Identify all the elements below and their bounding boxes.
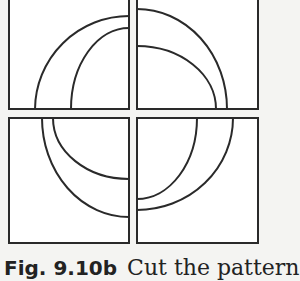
panel-top-right	[137, 0, 258, 109]
panel-border	[9, 118, 129, 243]
panel-top-left	[9, 0, 129, 109]
panel-bottom-left	[9, 118, 129, 243]
panel-bottom-right	[137, 118, 258, 243]
panel-border	[9, 0, 129, 109]
panel-border	[137, 0, 258, 109]
split-ring-figure	[0, 0, 263, 250]
caption-text: Cut the pattern	[127, 255, 299, 280]
figure-label: Fig. 9.10b	[4, 256, 117, 280]
figure-caption: Fig. 9.10bCut the pattern	[4, 255, 300, 281]
panel-border	[137, 118, 258, 243]
figure-canvas	[0, 0, 263, 250]
